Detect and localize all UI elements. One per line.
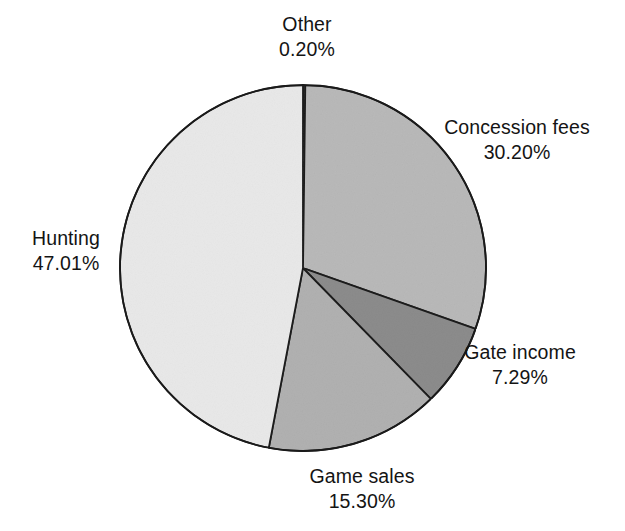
slice-label-other-value: 0.20% xyxy=(232,37,382,62)
slice-label-gate-income-name: Gate income xyxy=(430,340,610,365)
slice-label-other: Other 0.20% xyxy=(232,12,382,62)
slice-label-gate-income: Gate income 7.29% xyxy=(430,340,610,390)
slice-label-game-sales-value: 15.30% xyxy=(272,489,452,514)
slice-label-hunting-value: 47.01% xyxy=(8,251,124,276)
pie-chart-figure: Other 0.20% Concession fees 30.20% Gate … xyxy=(0,0,625,531)
slice-label-concession-fees: Concession fees 30.20% xyxy=(412,115,622,165)
slice-label-game-sales: Game sales 15.30% xyxy=(272,464,452,514)
slice-label-concession-fees-value: 30.20% xyxy=(412,140,622,165)
slice-label-concession-fees-name: Concession fees xyxy=(412,115,622,140)
slice-label-gate-income-value: 7.29% xyxy=(430,365,610,390)
slice-label-game-sales-name: Game sales xyxy=(272,464,452,489)
pie-slice-hunting xyxy=(120,85,303,448)
slice-label-other-name: Other xyxy=(232,12,382,37)
slice-label-hunting: Hunting 47.01% xyxy=(8,226,124,276)
slice-label-hunting-name: Hunting xyxy=(8,226,124,251)
